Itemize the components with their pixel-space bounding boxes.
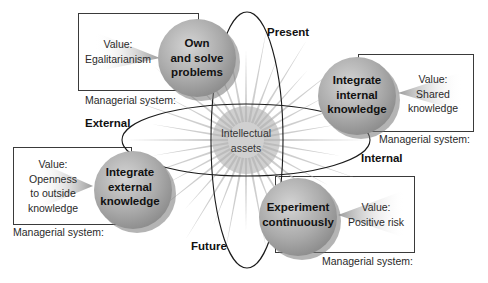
- managerial-experiment: Managerial system:: [322, 255, 413, 267]
- value-experiment: Value: Positive risk: [340, 200, 412, 229]
- node-own-line: Own: [157, 36, 237, 51]
- value-external: Value: Openness to outside knowledge: [20, 157, 86, 215]
- center-line-1: Intellectual: [206, 126, 286, 141]
- value-own: Value: Egalitarianism: [80, 37, 156, 66]
- node-external-label: Integrate external knowledge: [90, 165, 170, 209]
- value-text: knowledge: [20, 201, 86, 216]
- node-experiment-label: Experiment continuously: [253, 200, 343, 229]
- managerial-own: Managerial system:: [85, 94, 176, 106]
- node-experiment-line: continuously: [253, 215, 343, 230]
- value-text: knowledge: [400, 101, 466, 116]
- axis-future: Future: [191, 240, 227, 252]
- value-label: Value:: [340, 200, 412, 215]
- node-own-label: Own and solve problems: [157, 36, 237, 80]
- axis-external: External: [85, 117, 130, 129]
- center-line-2: assets: [206, 141, 286, 156]
- node-experiment-line: Experiment: [253, 200, 343, 215]
- node-internal-line: knowledge: [317, 102, 397, 117]
- value-label: Value:: [80, 37, 156, 52]
- value-text: Positive risk: [340, 215, 412, 230]
- node-external-line: knowledge: [90, 194, 170, 209]
- value-label: Value:: [400, 72, 466, 87]
- value-text: Egalitarianism: [80, 52, 156, 67]
- center-label: Intellectual assets: [206, 126, 286, 156]
- node-external-line: external: [90, 180, 170, 195]
- value-label: Value:: [20, 157, 86, 172]
- managerial-internal: Managerial system:: [379, 133, 470, 145]
- node-internal-line: Integrate: [317, 73, 397, 88]
- axis-present: Present: [267, 26, 309, 38]
- node-own-line: problems: [157, 65, 237, 80]
- value-internal: Value: Shared knowledge: [400, 72, 466, 116]
- node-external-line: Integrate: [90, 165, 170, 180]
- value-text: Shared: [400, 87, 466, 102]
- value-text: Openness: [20, 172, 86, 187]
- node-own-line: and solve: [157, 51, 237, 66]
- value-text: to outside: [20, 186, 86, 201]
- managerial-external: Managerial system:: [13, 226, 104, 238]
- axis-internal: Internal: [361, 152, 403, 164]
- node-internal-label: Integrate internal knowledge: [317, 73, 397, 117]
- node-internal-line: internal: [317, 88, 397, 103]
